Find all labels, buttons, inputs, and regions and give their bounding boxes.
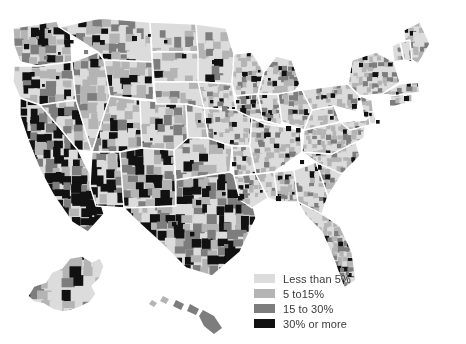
legend-swatch-30-or-more [254, 319, 275, 328]
legend-label-5-to-15: 5 to15% [283, 288, 324, 300]
legend-item-15-to-30[interactable]: 15 to 30% [254, 302, 351, 315]
legend-label-less-than-5: Less than 5% [283, 273, 351, 285]
legend-swatch-less-than-5 [254, 274, 275, 283]
choropleth-map-figure: Less than 5% 5 to15% 15 to 30% 30% or mo… [0, 0, 466, 344]
legend-label-30-or-more: 30% or more [283, 318, 347, 330]
map-legend: Less than 5% 5 to15% 15 to 30% 30% or mo… [254, 272, 351, 330]
legend-item-30-or-more[interactable]: 30% or more [254, 317, 351, 330]
legend-swatch-15-to-30 [254, 304, 275, 313]
legend-label-15-to-30: 15 to 30% [283, 303, 333, 315]
legend-swatch-5-to-15 [254, 289, 275, 298]
legend-item-less-than-5[interactable]: Less than 5% [254, 272, 351, 285]
legend-item-5-to-15[interactable]: 5 to15% [254, 287, 351, 300]
us-county-choropleth-canvas [0, 0, 466, 344]
